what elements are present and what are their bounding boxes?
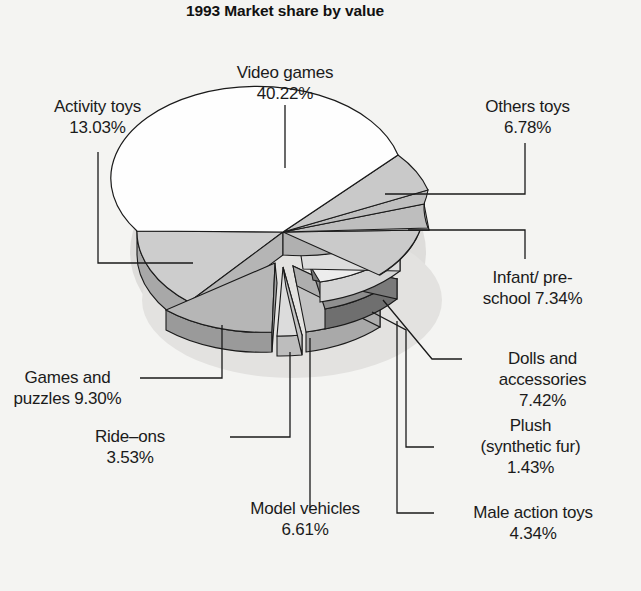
label-infant-pre-school: Infant/ pre- school 7.34% — [440, 267, 625, 309]
label-plush: Plush (synthetic fur) 1.43% — [443, 415, 618, 478]
leader-games-and-puzzles — [140, 325, 222, 378]
leader-plush — [372, 312, 434, 447]
label-activity-toys: Activity toys 13.03% — [10, 96, 185, 138]
chart-page: 1993 Market share by value — [0, 0, 641, 591]
label-dolls-and-accessories: Dolls and accessories 7.42% — [455, 348, 630, 411]
label-ride-ons: Ride–ons 3.53% — [40, 426, 220, 468]
label-male-action-toys: Male action toys 4.34% — [443, 502, 623, 544]
label-others-toys: Others toys 6.78% — [440, 96, 615, 138]
leader-activity-toys — [98, 152, 193, 263]
leader-infant-pre-school — [408, 230, 525, 259]
leader-others-toys — [385, 143, 525, 194]
label-games-and-puzzles: Games and puzzles 9.30% — [0, 367, 145, 409]
label-model-vehicles: Model vehicles 6.61% — [215, 498, 395, 540]
leader-male-action-toys — [397, 321, 434, 513]
leader-ride-ons — [230, 352, 290, 437]
label-video-games: Video games 40.22% — [205, 62, 365, 104]
